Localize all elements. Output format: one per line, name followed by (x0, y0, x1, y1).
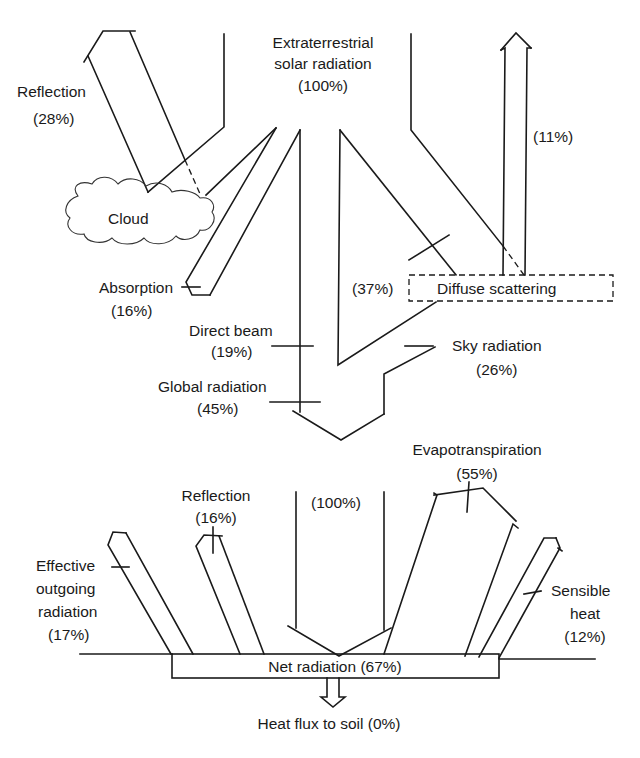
radiation-balance-diagram: Cloud Extraterrestrial solar radiation (… (0, 0, 640, 758)
scatter-up-arrow (501, 33, 531, 275)
effective-outgoing-line1: Effective (36, 557, 95, 574)
reflection-28-arrow (84, 31, 201, 196)
evapotranspiration-label: Evapotranspiration (412, 441, 541, 458)
direct-beam-value: (19%) (211, 343, 252, 360)
direct-beam-label: Direct beam (189, 322, 273, 339)
reflection-28-value: (28%) (33, 110, 74, 127)
effective-outgoing-value: (17%) (48, 626, 89, 643)
sky-radiation-value: (26%) (476, 361, 517, 378)
global-radiation-label: Global radiation (158, 378, 267, 395)
sensible-heat-line2: heat (570, 605, 601, 622)
incoming-left-boundary (148, 34, 224, 192)
global-radiation-value: (45%) (197, 400, 238, 417)
heat-flux-arrow (321, 678, 345, 707)
diffuse-label: Diffuse scattering (437, 280, 556, 297)
extraterrestrial-label-line1: Extraterrestrial (273, 34, 374, 51)
extraterrestrial-value: (100%) (298, 77, 348, 94)
reflection-16-arrow (196, 527, 264, 654)
incoming-100-arrow (288, 492, 391, 656)
net-radiation-label: Net radiation (67%) (268, 658, 402, 675)
reflection-28-label: Reflection (17, 83, 86, 100)
evapotranspiration-arrow (384, 482, 518, 656)
diffuse-value: (37%) (352, 280, 393, 297)
absorption-value: (16%) (111, 302, 152, 319)
effective-outgoing-line3: radiation (38, 603, 97, 620)
incoming-100-value: (100%) (311, 494, 361, 511)
sensible-heat-line1: Sensible (551, 582, 610, 599)
effective-outgoing-arrow (108, 532, 193, 654)
sensible-heat-arrow (479, 538, 562, 658)
reflection-16-value: (16%) (195, 509, 236, 526)
incoming-right-boundary (405, 34, 524, 346)
effective-outgoing-line2: outgoing (36, 580, 95, 597)
sky-radiation-label: Sky radiation (452, 337, 542, 354)
sensible-heat-value: (12%) (564, 628, 605, 645)
absorption-label: Absorption (99, 279, 173, 296)
absorption-arrow (182, 128, 300, 295)
evapotranspiration-value: (55%) (456, 465, 497, 482)
heat-flux-label: Heat flux to soil (0%) (258, 715, 401, 732)
scatter-up-value: (11%) (533, 128, 573, 145)
reflection-16-label: Reflection (182, 487, 251, 504)
cloud-label: Cloud (108, 210, 149, 227)
extraterrestrial-label-line2: solar radiation (274, 55, 371, 72)
